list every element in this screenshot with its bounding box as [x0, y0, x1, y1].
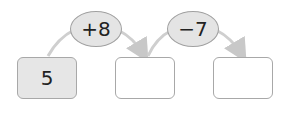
- operation-subtract: −7: [167, 11, 219, 47]
- start-box: 5: [17, 57, 77, 99]
- arrow-1-out: [118, 30, 144, 55]
- arrow-2-out: [216, 30, 242, 55]
- answer-box-2[interactable]: [213, 57, 273, 99]
- operation-add: +8: [70, 11, 122, 47]
- answer-box-1[interactable]: [115, 57, 175, 99]
